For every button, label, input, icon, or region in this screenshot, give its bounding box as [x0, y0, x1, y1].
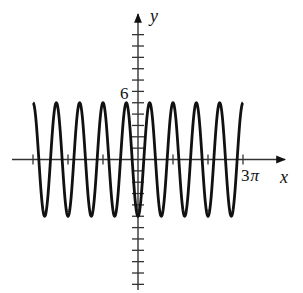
- y-tick-label-6: 6: [120, 84, 129, 103]
- x-tick-label-3pi: 3π: [241, 166, 260, 185]
- y-axis-label: y: [148, 6, 158, 26]
- x-axis-label: x: [279, 167, 288, 187]
- graph: y x 6 3π: [0, 0, 303, 293]
